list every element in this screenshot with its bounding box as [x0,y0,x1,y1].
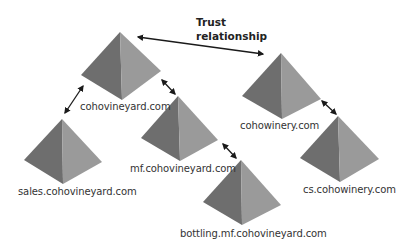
trust-label-line2: relationship [196,29,267,43]
arrow-cohowinery-cs [322,101,336,114]
node-label-sales: sales.cohovineyard.com [18,186,137,197]
node-label-cs: cs.cohowinery.com [303,184,396,195]
trust-relationship-label: Trust relationship [196,15,267,43]
trust-label-line1: Trust [196,15,267,29]
trust-diagram: Trust relationship cohovineyard.com sale… [0,0,409,248]
pyramid-icon-cohovineyard [81,32,161,100]
node-label-bottling: bottling.mf.cohovineyard.com [180,228,327,239]
node-label-cohowinery: cohowinery.com [240,120,319,131]
node-label-cohovineyard: cohovineyard.com [80,101,171,112]
arrow-mf-bottling [223,144,236,158]
node-label-mf: mf.cohovineyard.com [130,163,236,174]
pyramid-icon-cohowinery [242,53,321,119]
arrow-cohovineyard-mf [162,80,175,94]
pyramid-icon-sales [24,119,102,184]
